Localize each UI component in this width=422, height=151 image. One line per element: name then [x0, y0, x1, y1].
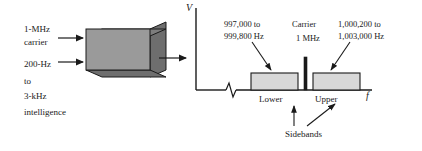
lower-callout-leader-arrow [252, 42, 271, 70]
device-block-front-face [86, 29, 150, 70]
lower-sideband-bar [251, 73, 298, 90]
sidebands-leader-arrow-upper [307, 104, 335, 126]
axis-break-symbol [226, 83, 236, 97]
v-axis-label: V [186, 2, 194, 13]
f-axis-label: f [366, 90, 370, 101]
figure-vector-layer: V f [0, 0, 422, 151]
am-spectrum-figure: 1-MHz carrier 200-Hz to 3-kHz intelligen… [0, 0, 422, 151]
upper-callout-leader-arrow [331, 42, 350, 70]
carrier-spectral-line [304, 57, 307, 90]
upper-sideband-bar [313, 73, 360, 90]
